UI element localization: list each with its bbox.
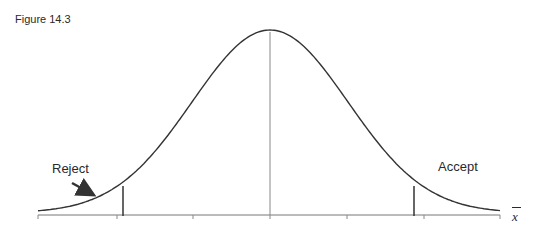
accept-label: Accept bbox=[438, 159, 478, 174]
bell-curve bbox=[38, 30, 500, 211]
x-symbol: x bbox=[512, 209, 518, 224]
reject-arrow-icon bbox=[72, 183, 92, 194]
reject-label: Reject bbox=[52, 161, 89, 176]
axis-ticks bbox=[38, 215, 500, 219]
overbar bbox=[512, 207, 521, 208]
normal-curve-diagram bbox=[0, 0, 545, 239]
x-bar-axis-label: x bbox=[512, 207, 521, 225]
